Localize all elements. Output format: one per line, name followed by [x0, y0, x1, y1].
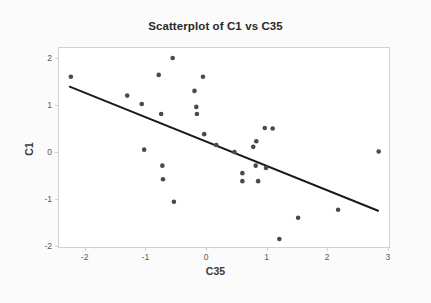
y-tick-mark	[55, 105, 58, 106]
x-tick-mark	[267, 248, 268, 251]
y-tick-label: 0	[36, 147, 52, 157]
y-tick-label: -1	[36, 194, 52, 204]
chart-title: Scatterplot of C1 vs C35	[0, 20, 431, 32]
y-tick-mark	[55, 199, 58, 200]
x-tick-mark	[85, 248, 86, 251]
x-tick-mark	[145, 248, 146, 251]
x-tick-mark	[206, 248, 207, 251]
x-tick-mark	[388, 248, 389, 251]
x-tick-label: 1	[264, 252, 269, 262]
plot-area	[58, 47, 390, 248]
y-axis-label: C1	[23, 142, 35, 155]
y-tick-mark	[55, 246, 58, 247]
y-tick-mark	[55, 58, 58, 59]
y-tick-label: 1	[36, 100, 52, 110]
x-tick-label: -1	[142, 252, 150, 262]
x-tick-mark	[327, 248, 328, 251]
y-tick-mark	[55, 152, 58, 153]
x-tick-label: 0	[204, 252, 209, 262]
x-tick-label: 2	[325, 252, 330, 262]
x-tick-label: 3	[385, 252, 390, 262]
scatterplot-figure: Scatterplot of C1 vs C35 C1 C35 -2-10123…	[0, 0, 431, 303]
x-tick-label: -2	[81, 252, 89, 262]
y-tick-label: -2	[36, 241, 52, 251]
x-axis-label: C35	[0, 265, 431, 277]
y-tick-label: 2	[36, 53, 52, 63]
